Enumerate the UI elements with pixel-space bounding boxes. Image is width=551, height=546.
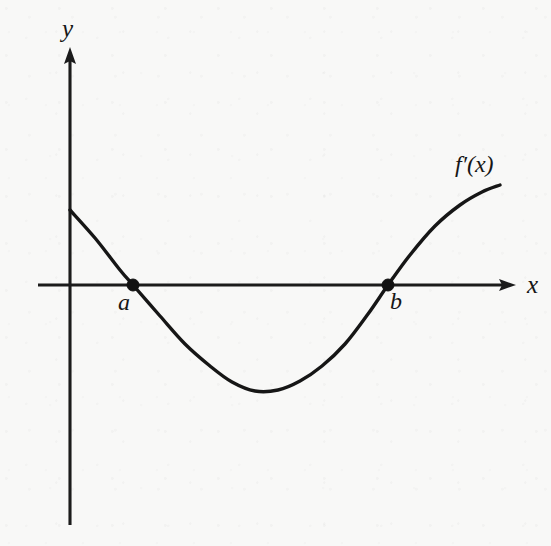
y-axis-label: y: [62, 16, 73, 41]
plot-canvas: [0, 0, 551, 546]
x-axis-label: x: [527, 272, 538, 297]
point-label-b: b: [390, 289, 402, 313]
curve-label-f-prime: f′(x): [455, 152, 494, 176]
point-label-a: a: [118, 290, 130, 314]
graph-figure: y x a b f′(x): [0, 0, 551, 546]
